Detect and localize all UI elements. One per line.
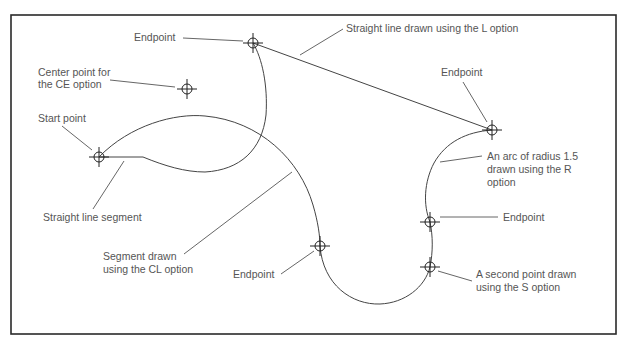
bottom-arc [320, 246, 430, 304]
ce-center-point-marker [177, 79, 197, 99]
leader-start-point [62, 126, 92, 150]
cl-segment-arc [99, 116, 320, 246]
label-second-point-line1: A second point drawn [476, 268, 576, 281]
endpoint-right-marker [482, 120, 502, 140]
label-endpoint-bottom: Endpoint [233, 268, 274, 281]
leader-straight-line-l [300, 29, 343, 55]
label-arc-radius-line3: option [487, 176, 516, 189]
r-arc [425, 130, 492, 222]
endpoint-lower-right-marker [420, 212, 440, 232]
label-endpoint-right: Endpoint [441, 66, 482, 79]
leader-endpoint-right [463, 82, 487, 122]
label-endpoint-top: Endpoint [134, 31, 175, 44]
label-segment-cl-line1: Segment drawn [103, 250, 177, 263]
label-arc-radius-line1: An arc of radius 1.5 [487, 150, 578, 163]
ce-arc [205, 43, 266, 172]
label-arc-radius-line2: drawn using the R [487, 163, 572, 176]
straight-line-segment [99, 157, 205, 172]
leader-arc-radius [440, 156, 482, 162]
leader-ce-center [110, 80, 175, 87]
endpoint-top-marker [243, 33, 263, 53]
label-straight-line-l: Straight line drawn using the L option [346, 22, 518, 35]
endpoint-bottom-marker [310, 236, 330, 256]
leader-second-point [438, 271, 472, 281]
leader-endpoint-bottom [281, 251, 314, 274]
label-straight-segment: Straight line segment [43, 211, 142, 224]
second-point-s-marker [420, 257, 440, 277]
leader-straight-segment [93, 161, 124, 209]
leader-cl-segment [184, 172, 292, 254]
label-center-point-line2: the CE option [38, 78, 102, 91]
label-endpoint-lower-right: Endpoint [503, 211, 544, 224]
label-second-point-line2: using the S option [476, 281, 560, 294]
label-segment-cl-line2: using the CL option [103, 263, 193, 276]
label-start-point: Start point [38, 112, 86, 125]
l-straight-line [253, 43, 492, 130]
leader-endpoint-top [183, 38, 243, 41]
